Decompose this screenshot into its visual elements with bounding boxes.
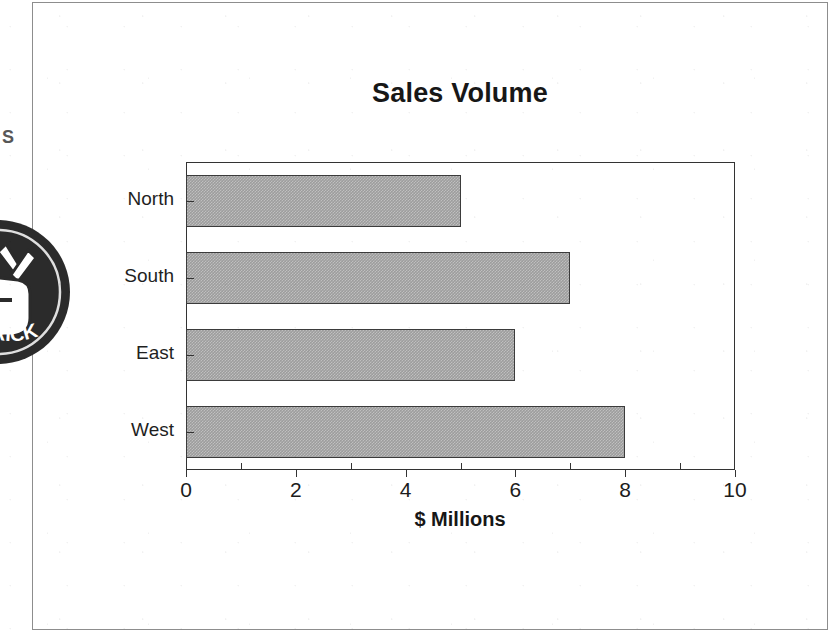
x-tick-major-10 xyxy=(735,470,736,477)
bar-south xyxy=(186,252,570,304)
x-tick-label-4: 4 xyxy=(376,478,436,502)
bar-west xyxy=(186,406,625,458)
y-tick-south xyxy=(186,278,194,279)
bar-east xyxy=(186,329,515,381)
y-tick-east xyxy=(186,355,194,356)
x-tick-label-0: 0 xyxy=(156,478,216,502)
x-tick-major-6 xyxy=(515,470,516,477)
x-tick-minor-3 xyxy=(351,463,352,470)
y-axis-label-west: West xyxy=(131,419,174,441)
x-tick-minor-9 xyxy=(680,463,681,470)
x-axis-title: $ Millions xyxy=(260,508,660,531)
x-tick-major-0 xyxy=(186,470,187,477)
bar-chart: Sales Volume NorthSouthEastWest 0246810 … xyxy=(0,0,837,639)
x-tick-minor-7 xyxy=(570,463,571,470)
x-tick-major-4 xyxy=(406,470,407,477)
y-tick-north xyxy=(186,201,194,202)
y-axis-label-north: North xyxy=(128,188,174,210)
chart-title: Sales Volume xyxy=(260,78,660,109)
x-tick-label-10: 10 xyxy=(705,478,765,502)
x-tick-label-2: 2 xyxy=(266,478,326,502)
y-axis-label-east: East xyxy=(136,342,174,364)
bar-north xyxy=(186,175,461,227)
x-tick-label-6: 6 xyxy=(485,478,545,502)
x-tick-minor-5 xyxy=(461,463,462,470)
y-tick-west xyxy=(186,432,194,433)
x-tick-label-8: 8 xyxy=(595,478,655,502)
y-axis-label-south: South xyxy=(124,265,174,287)
x-tick-minor-1 xyxy=(241,463,242,470)
x-tick-major-8 xyxy=(625,470,626,477)
x-tick-major-2 xyxy=(296,470,297,477)
